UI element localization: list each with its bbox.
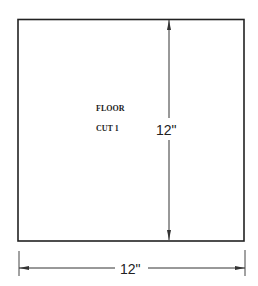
piece-label-cut: CUT 1 [96, 124, 119, 133]
piece-label-floor: FLOOR [96, 104, 125, 113]
horizontal-dimension-label: 12" [120, 261, 141, 277]
floor-cut-diagram: FLOOR CUT 1 12" 12" [0, 0, 258, 286]
vertical-dimension-label: 12" [156, 122, 177, 138]
floor-piece-outline [18, 20, 244, 242]
